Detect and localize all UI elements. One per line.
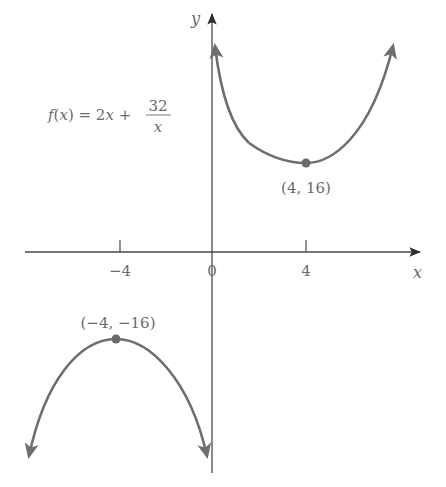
- x-tick-label-4: 4: [301, 262, 311, 280]
- local-max-point: [112, 335, 121, 344]
- x-tick-label-0: 0: [207, 262, 217, 280]
- local-max-label: (−4, −16): [80, 314, 155, 332]
- local-min-point: [302, 159, 311, 168]
- chart-canvas: −4 0 4 x y (4, 16) (−4, −16) f(x) = 2x +…: [0, 0, 446, 487]
- curve-right-branch-left-arm: [215, 46, 249, 143]
- curve-left-branch-right-arm: [116, 339, 207, 456]
- fraction-denominator: x: [154, 118, 163, 136]
- curve-left-branch-left-arm: [29, 339, 116, 456]
- x-axis-label: x: [413, 263, 422, 282]
- function-label: f(x) = 2x + 32 x: [47, 97, 171, 136]
- fraction-numerator: 32: [148, 97, 167, 115]
- local-min-label: (4, 16): [281, 179, 331, 197]
- y-axis-label: y: [190, 9, 201, 28]
- curve-right-branch: [249, 46, 393, 163]
- svg-text:f(x) = 2x +: f(x) = 2x +: [47, 106, 131, 124]
- x-tick-label-neg4: −4: [109, 262, 131, 280]
